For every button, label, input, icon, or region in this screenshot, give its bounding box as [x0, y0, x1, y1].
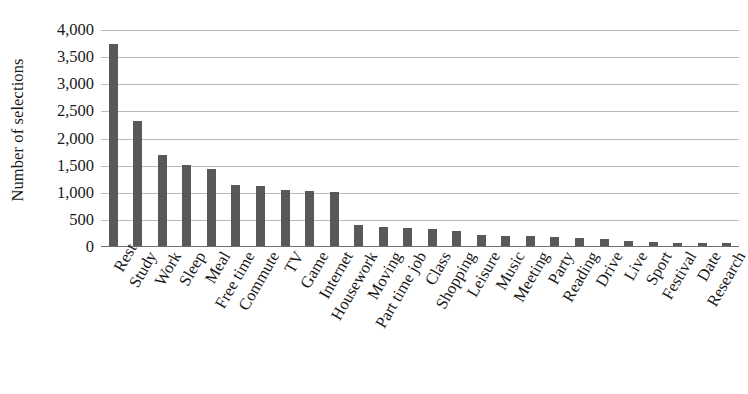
y-axis-tick: 3,500	[57, 47, 94, 67]
bar	[428, 229, 437, 247]
bars-group	[101, 30, 739, 247]
bar	[182, 165, 191, 247]
bar	[403, 228, 412, 247]
bar	[305, 191, 314, 247]
y-axis-tick: 2,000	[57, 129, 94, 149]
x-axis-tick-labels: RestStudyWorkSleepMealFree timeCommuteTV…	[101, 249, 739, 394]
bar	[379, 227, 388, 247]
y-axis-tick: 500	[69, 210, 94, 230]
bar	[354, 225, 363, 247]
bar	[281, 190, 290, 248]
bar	[452, 231, 461, 247]
bar	[256, 186, 265, 247]
y-axis-tick: 0	[86, 237, 94, 257]
bar	[330, 192, 339, 247]
plot-area	[101, 30, 739, 247]
bar	[133, 121, 142, 247]
y-axis-title-label: Number of selections	[8, 58, 28, 201]
y-axis-tick: 4,000	[57, 20, 94, 40]
x-axis-line	[101, 246, 739, 247]
bar	[207, 169, 216, 247]
y-axis-tick-labels: 05001,0001,5002,0002,5003,0003,5004,000	[36, 0, 98, 280]
y-axis-tick: 3,000	[57, 74, 94, 94]
y-axis-tick: 1,500	[57, 156, 94, 176]
bar	[109, 44, 118, 247]
y-axis-tick: 1,000	[57, 183, 94, 203]
y-axis-title: Number of selections	[0, 0, 36, 260]
y-axis-tick: 2,500	[57, 101, 94, 121]
bar	[231, 185, 240, 247]
bar	[158, 155, 167, 247]
bar-chart: Number of selections 05001,0001,5002,000…	[0, 0, 748, 394]
